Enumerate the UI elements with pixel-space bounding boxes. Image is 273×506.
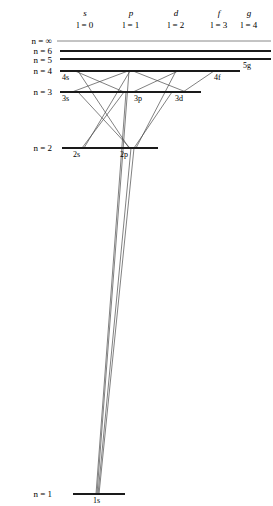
transition-4d-3p — [133, 71, 178, 92]
column-header-l-g: l = 4 — [241, 20, 258, 30]
term-label-2s: 2s — [73, 150, 80, 159]
row-label-n-2: n = 2 — [33, 143, 52, 153]
column-header-l-d: l = 2 — [168, 20, 185, 30]
transition-lines — [72, 71, 214, 494]
column-header-letter-p: p — [128, 8, 134, 18]
term-label-4s: 4s — [62, 73, 69, 82]
term-label-3d: 3d — [175, 94, 183, 103]
energy-level-diagram: s l = 0 p l = 1 d l = 2 f l = 3 g l = 4 … — [0, 0, 273, 506]
column-header-l-f: l = 3 — [211, 20, 228, 30]
transition-4d-2p — [136, 71, 176, 148]
row-labels: n = ∞ n = 6 n = 5 n = 4 n = 3 n = 2 n = … — [32, 36, 53, 499]
column-header-letter-s: s — [83, 8, 87, 18]
transition-4p-3d — [133, 71, 186, 92]
transition-4f-3d — [183, 71, 214, 92]
column-headers: s l = 0 p l = 1 d l = 2 f l = 3 g l = 4 — [77, 8, 258, 30]
column-header-letter-g: g — [247, 8, 252, 18]
column-header-l-p: l = 1 — [123, 20, 140, 30]
column-header-letter-f: f — [218, 8, 222, 18]
column-header-l-s: l = 0 — [77, 20, 94, 30]
transition-4s-2p — [78, 71, 129, 148]
term-label-1s: 1s — [93, 496, 100, 505]
term-label-5g: 5g — [243, 61, 251, 70]
term-label-2p: 2p — [120, 150, 128, 159]
transition-4p-2s — [84, 71, 130, 148]
column-header-letter-d: d — [174, 8, 179, 18]
term-label-4f: 4f — [214, 73, 221, 82]
row-label-n-3: n = 3 — [33, 87, 52, 97]
row-label-n-4: n = 4 — [33, 66, 52, 76]
row-label-n-5: n = 5 — [33, 55, 52, 65]
transition-2p-1s-b — [99, 148, 134, 494]
transition-3p-2s — [82, 92, 124, 148]
term-labels: 4s 3s 2s 3p 2p 3d 4f 5g 1s — [62, 61, 251, 505]
term-label-3p: 3p — [134, 94, 142, 103]
term-label-3s: 3s — [62, 94, 69, 103]
level-lines — [60, 51, 271, 494]
transition-4p-1s — [97, 71, 129, 494]
row-label-n-1: n = 1 — [33, 489, 52, 499]
transition-2p-1s — [98, 148, 131, 494]
row-label-n-infinity: n = ∞ — [32, 36, 53, 46]
